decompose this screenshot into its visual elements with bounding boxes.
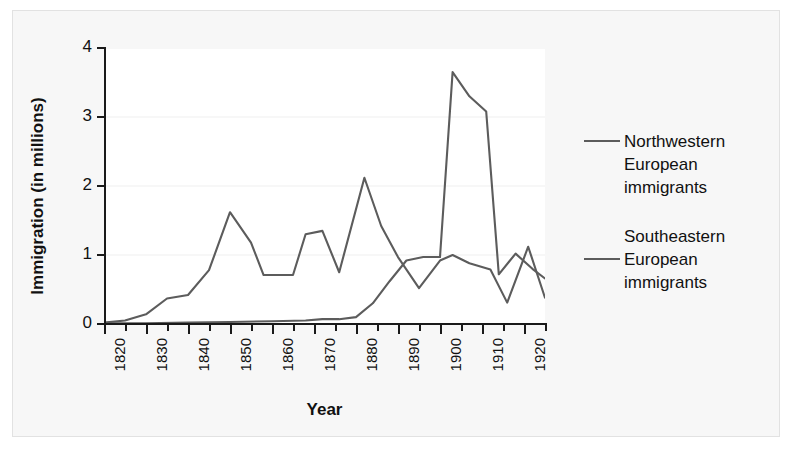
y-tick-label: 1 bbox=[66, 244, 92, 264]
x-tick-minor bbox=[335, 325, 337, 331]
y-axis-title: Immigration (in millions) bbox=[28, 46, 48, 346]
series-line-southeastern bbox=[104, 72, 545, 323]
legend-swatch-northwestern bbox=[584, 140, 620, 142]
x-tick-label: 1890 bbox=[405, 338, 422, 371]
legend-label-southeastern-line2: European bbox=[624, 248, 774, 271]
x-tick-label: 1850 bbox=[237, 338, 254, 371]
x-tick-major bbox=[188, 325, 190, 334]
gridlines bbox=[104, 48, 545, 255]
x-tick-minor bbox=[167, 325, 169, 331]
plot-canvas bbox=[104, 48, 545, 324]
plot-area bbox=[104, 48, 545, 324]
legend-label-southeastern: Southeastern European immigrants bbox=[624, 225, 774, 294]
legend-entry-southeastern: Southeastern European immigrants bbox=[584, 225, 774, 294]
series-line-northwestern bbox=[104, 178, 545, 323]
immigration-line-chart: Immigration (in millions) 01234 18201830… bbox=[0, 0, 799, 455]
y-tick-mark bbox=[97, 323, 104, 325]
x-tick-minor bbox=[461, 325, 463, 331]
legend-swatch-southeastern bbox=[584, 258, 620, 260]
x-tick-minor bbox=[377, 325, 379, 331]
legend-label-northwestern: Northwestern European immigrants bbox=[624, 130, 774, 199]
y-tick-mark bbox=[97, 47, 104, 49]
x-tick-minor bbox=[125, 325, 127, 331]
x-tick-major bbox=[230, 325, 232, 334]
x-tick-major bbox=[356, 325, 358, 334]
x-tick-minor bbox=[209, 325, 211, 331]
legend-entry-northwestern: Northwestern European immigrants bbox=[584, 130, 774, 199]
legend-label-southeastern-line1: Southeastern bbox=[624, 225, 774, 248]
y-tick-mark bbox=[97, 254, 104, 256]
x-tick-major bbox=[272, 325, 274, 334]
x-tick-label: 1820 bbox=[111, 338, 128, 371]
x-tick-minor bbox=[419, 325, 421, 331]
legend-label-southeastern-line3: immigrants bbox=[624, 271, 774, 294]
x-tick-minor bbox=[251, 325, 253, 331]
legend-label-northwestern-line3: immigrants bbox=[624, 176, 774, 199]
legend-label-northwestern-line1: Northwestern bbox=[624, 130, 774, 153]
x-tick-label: 1840 bbox=[195, 338, 212, 371]
y-axis-tick-labels: 01234 bbox=[60, 0, 92, 340]
y-tick-mark bbox=[97, 185, 104, 187]
x-tick-major bbox=[440, 325, 442, 334]
y-tick-mark bbox=[97, 116, 104, 118]
x-tick-major bbox=[482, 325, 484, 334]
x-axis-title: Year bbox=[104, 400, 545, 420]
x-tick-major bbox=[524, 325, 526, 334]
x-axis-spine bbox=[104, 323, 547, 325]
x-tick-label: 1910 bbox=[489, 338, 506, 371]
x-tick-label: 1870 bbox=[321, 338, 338, 371]
y-tick-label: 3 bbox=[66, 106, 92, 126]
x-tick-major bbox=[398, 325, 400, 334]
legend-label-northwestern-line2: European bbox=[624, 153, 774, 176]
x-tick-minor bbox=[293, 325, 295, 331]
x-tick-label: 1900 bbox=[447, 338, 464, 371]
y-tick-label: 0 bbox=[66, 313, 92, 333]
x-tick-minor bbox=[545, 325, 547, 331]
x-tick-minor bbox=[503, 325, 505, 331]
x-tick-label: 1920 bbox=[531, 338, 548, 371]
x-tick-label: 1880 bbox=[363, 338, 380, 371]
y-axis-spine bbox=[104, 47, 106, 325]
x-tick-label: 1860 bbox=[279, 338, 296, 371]
x-tick-major bbox=[104, 325, 106, 334]
y-tick-label: 4 bbox=[66, 37, 92, 57]
y-tick-label: 2 bbox=[66, 175, 92, 195]
x-tick-major bbox=[146, 325, 148, 334]
chart-legend: Northwestern European immigrants Southea… bbox=[584, 130, 774, 320]
x-tick-label: 1830 bbox=[153, 338, 170, 371]
x-tick-major bbox=[314, 325, 316, 334]
